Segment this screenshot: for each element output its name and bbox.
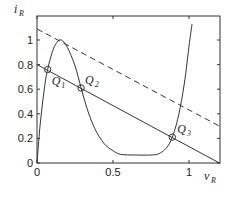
- y-tick-label: 0.2: [18, 132, 33, 144]
- q-point-markers: Q1Q2Q3: [44, 66, 191, 140]
- q-point-label: Q2: [85, 73, 99, 89]
- x-axis-label-sub: R: [210, 176, 216, 185]
- y-tick-labels: 00.20.40.60.81: [18, 34, 33, 169]
- chart: 00.20.40.60.81 00.51 Q1Q2Q3 i R v R: [0, 0, 235, 198]
- x-tick-label: 1: [186, 166, 192, 178]
- y-tick-label: 0.6: [18, 83, 33, 95]
- characteristic-curve: [37, 24, 192, 163]
- series-group: [37, 24, 219, 163]
- load-line: [37, 65, 219, 163]
- y-axis-label-sub: R: [18, 9, 24, 18]
- y-tick-label: 0.4: [18, 108, 33, 120]
- dashed-load-line: [37, 29, 219, 126]
- y-tick-label: 0: [27, 157, 33, 169]
- x-tick-labels: 00.51: [34, 166, 192, 178]
- q-point-label: Q3: [177, 122, 191, 138]
- x-axis-label: v: [204, 169, 210, 183]
- y-axis-label: i: [14, 2, 17, 16]
- y-tick-label: 0.8: [18, 59, 33, 71]
- y-tick-label: 1: [27, 34, 33, 46]
- q-point-label: Q1: [52, 74, 66, 90]
- x-tick-label: 0.5: [105, 166, 120, 178]
- x-tick-label: 0: [34, 166, 40, 178]
